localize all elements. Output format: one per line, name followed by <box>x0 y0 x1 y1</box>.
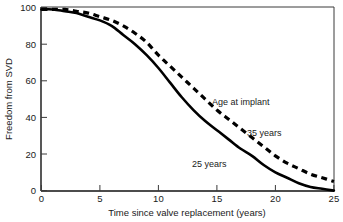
y-axis-title: Freedom from SVD <box>3 58 14 140</box>
x-tick-labels: 0 5 10 15 20 25 <box>39 193 339 204</box>
y-tick-label-80: 80 <box>25 39 36 50</box>
y-tick-label-60: 60 <box>25 75 36 86</box>
x-tick-label-25: 25 <box>329 193 340 204</box>
annotation-25-years: 25 years <box>192 159 227 169</box>
annotation-age-at-implant: Age at implant <box>212 97 270 107</box>
chart-annotations: Age at implant 35 years 25 years <box>192 97 282 169</box>
series-line-35-years <box>41 9 334 181</box>
x-axis-title: Time since valve replacement (years) <box>108 207 266 218</box>
y-tick-labels: 0 20 40 60 80 100 <box>20 2 36 196</box>
freedom-from-svd-chart: 0 20 40 60 80 100 0 5 10 15 20 25 Time s… <box>0 0 343 222</box>
x-tick-label-5: 5 <box>97 193 102 204</box>
data-series-group <box>41 9 334 190</box>
x-tick-label-0: 0 <box>39 193 44 204</box>
y-tick-label-0: 0 <box>31 185 36 196</box>
y-tick-label-40: 40 <box>25 112 36 123</box>
x-tick-label-15: 15 <box>212 193 223 204</box>
series-line-25-years <box>41 9 334 190</box>
x-tick-label-10: 10 <box>153 193 164 204</box>
x-tick-label-20: 20 <box>270 193 281 204</box>
plot-frame <box>41 7 334 191</box>
y-tick-label-100: 100 <box>20 2 36 13</box>
annotation-35-years: 35 years <box>247 128 282 138</box>
y-axis-ticks <box>41 8 47 191</box>
y-tick-label-20: 20 <box>25 149 36 160</box>
x-axis-ticks <box>41 185 334 191</box>
chart-figure: 0 20 40 60 80 100 0 5 10 15 20 25 Time s… <box>0 0 343 222</box>
axes <box>41 7 334 191</box>
